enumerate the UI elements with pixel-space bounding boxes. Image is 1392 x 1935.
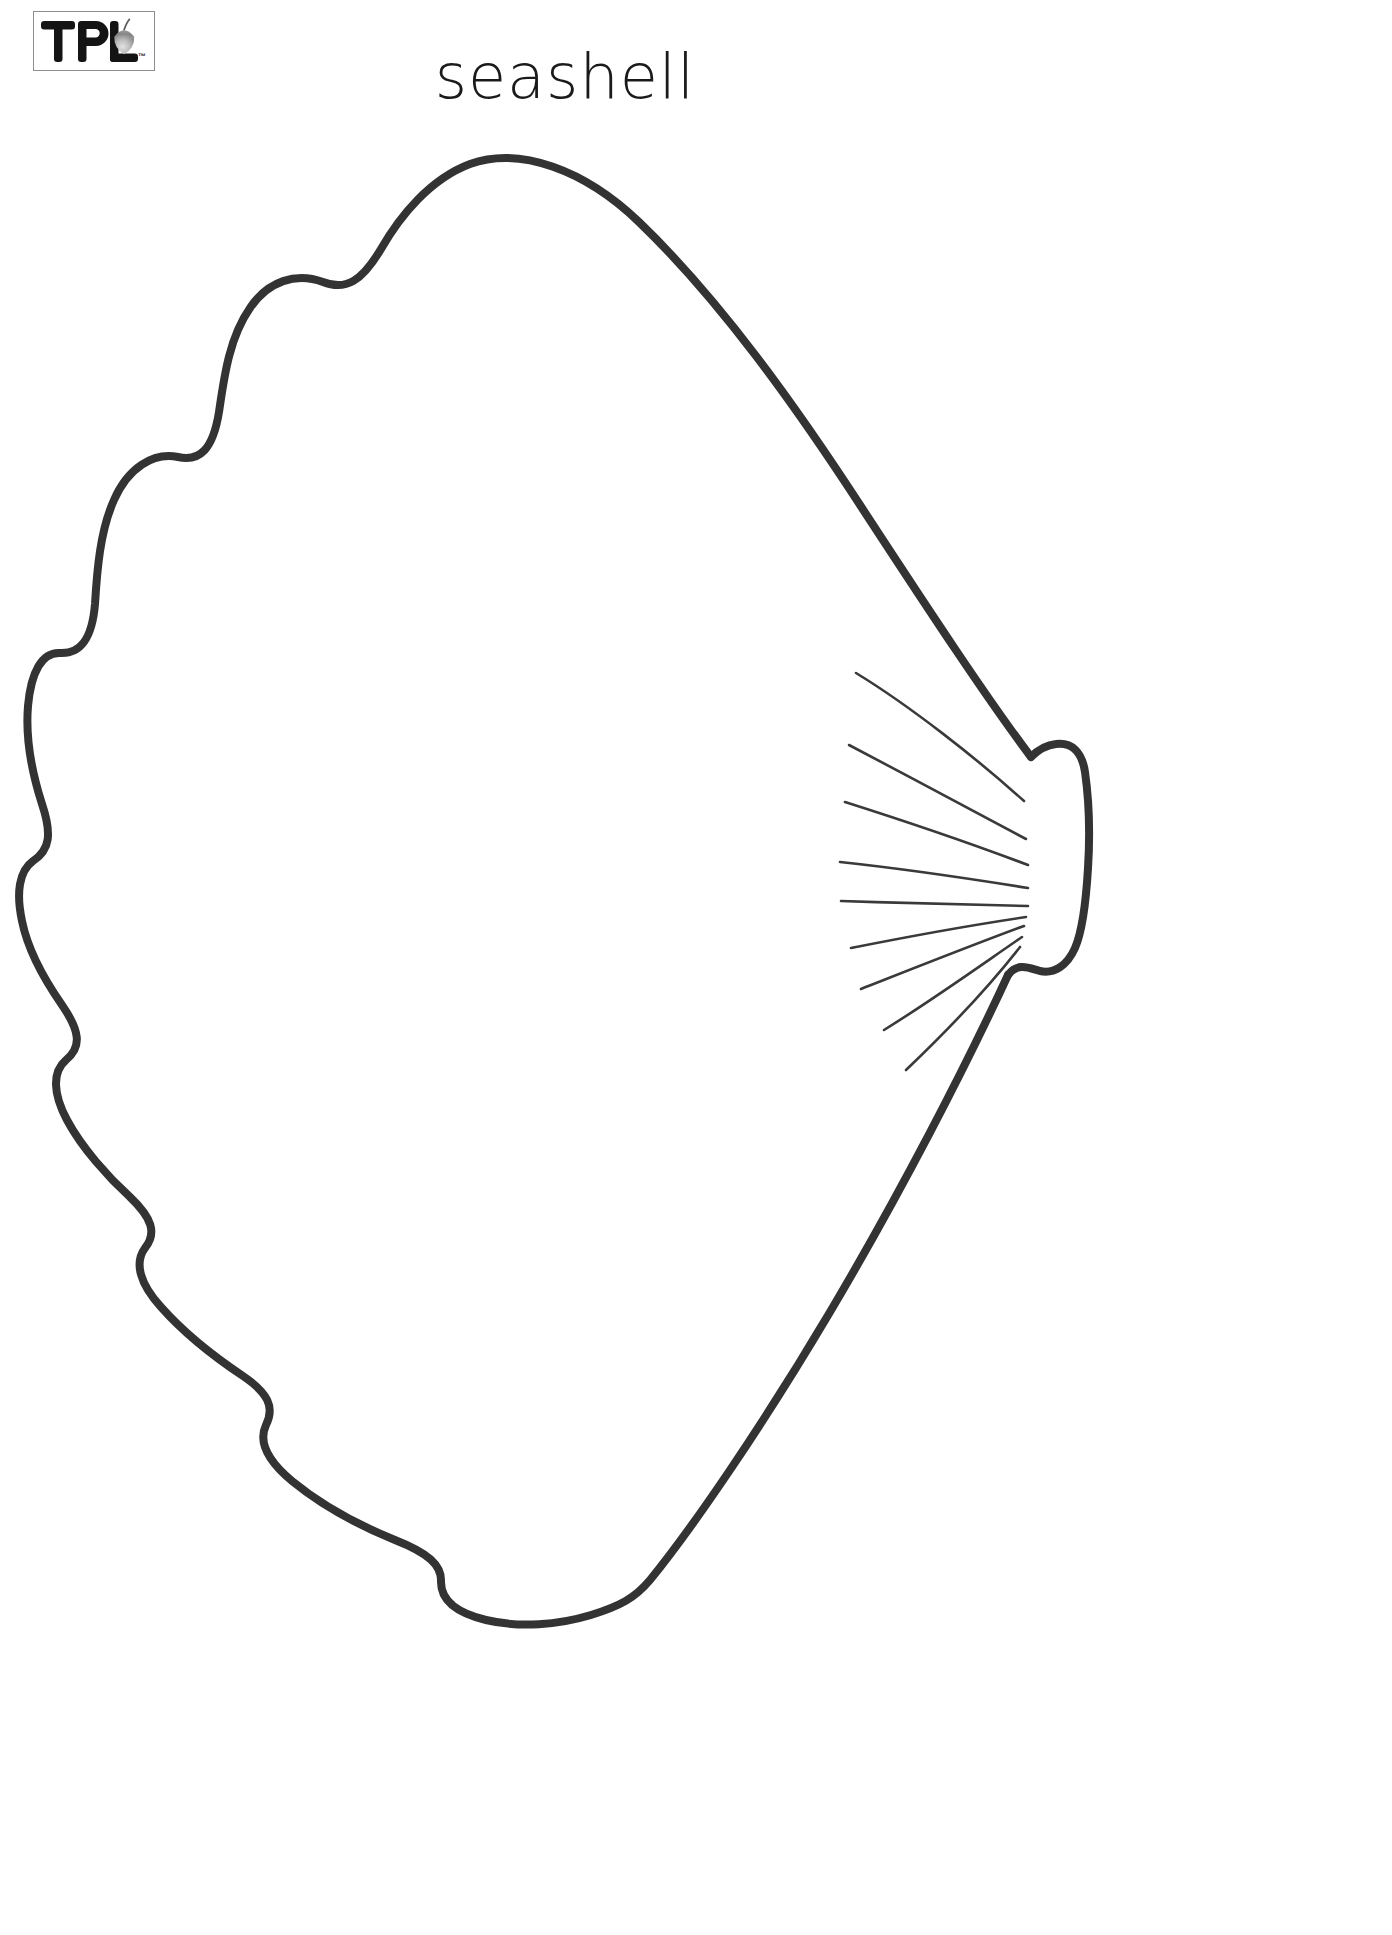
shell-ray-group [840,673,1028,1070]
shell-ray [861,926,1024,989]
shell-ray [856,673,1024,801]
shell-hinge-path [1008,744,1089,975]
shell-ray [841,901,1028,906]
page-canvas: ™ seashell [0,0,1392,1935]
shell-ray [845,802,1028,865]
shell-ray [851,917,1026,948]
shell-outline-path [19,158,1031,1625]
seashell-illustration [0,0,1392,1935]
shell-ray [849,745,1026,839]
shell-ray [840,862,1028,888]
